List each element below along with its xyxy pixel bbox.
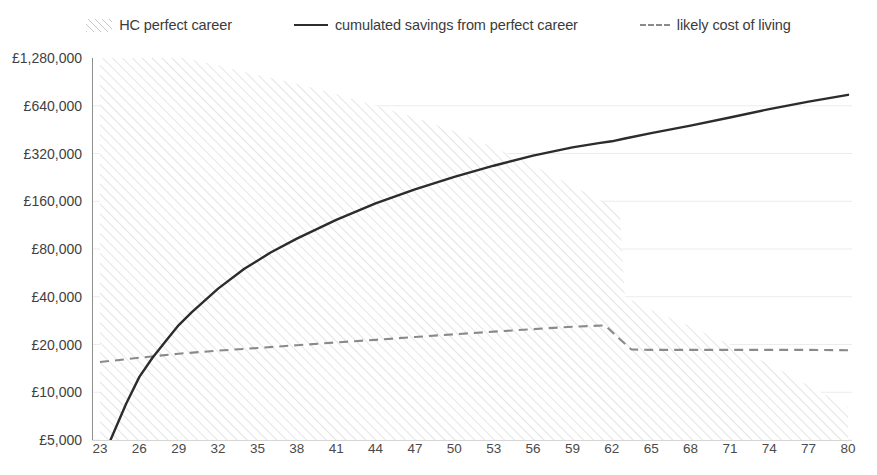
x-axis-tick-label: 59 <box>565 441 580 456</box>
x-axis-tick-label: 71 <box>722 441 737 456</box>
x-axis-tick-label: 23 <box>92 441 107 456</box>
x-axis-tick-label: 50 <box>447 441 462 456</box>
legend-item-hc-perfect-career[interactable]: HC perfect career <box>86 17 232 33</box>
x-axis-tick-label: 47 <box>407 441 422 456</box>
y-axis-tick-label: £80,000 <box>31 241 82 257</box>
x-axis-tick-label: 65 <box>644 441 659 456</box>
x-axis-tick-label: 56 <box>526 441 541 456</box>
legend-label-likely-cost-of-living: likely cost of living <box>677 17 791 33</box>
x-axis-tick-label: 53 <box>486 441 501 456</box>
x-axis-tick-label: 32 <box>211 441 226 456</box>
y-axis: £1,280,000£640,000£320,000£160,000£80,00… <box>0 0 86 475</box>
legend-item-cumulated-savings[interactable]: cumulated savings from perfect career <box>294 17 578 33</box>
x-axis: 2326293235384144475053565962656871747780 <box>0 441 877 465</box>
dashed-line-icon <box>640 24 670 26</box>
x-axis-tick-label: 26 <box>132 441 147 456</box>
y-axis-tick-label: £160,000 <box>24 193 82 209</box>
y-axis-tick-label: £40,000 <box>31 289 82 305</box>
savings-chart: HC perfect career cumulated savings from… <box>0 0 877 475</box>
x-axis-tick-label: 80 <box>840 441 855 456</box>
hatch-swatch-icon <box>86 19 112 32</box>
x-axis-tick-label: 74 <box>762 441 777 456</box>
x-axis-tick-label: 44 <box>368 441 383 456</box>
x-axis-tick-label: 35 <box>250 441 265 456</box>
legend-label-cumulated-savings: cumulated savings from perfect career <box>335 17 578 33</box>
y-axis-tick-label: £640,000 <box>24 98 82 114</box>
x-axis-tick-label: 38 <box>289 441 304 456</box>
y-axis-tick-label: £20,000 <box>31 337 82 353</box>
legend-label-hc-perfect-career: HC perfect career <box>119 17 232 33</box>
x-axis-tick-label: 62 <box>604 441 619 456</box>
x-axis-tick-label: 29 <box>171 441 186 456</box>
y-axis-tick-label: £1,280,000 <box>12 50 82 66</box>
chart-legend: HC perfect career cumulated savings from… <box>0 8 877 42</box>
x-axis-tick-label: 68 <box>683 441 698 456</box>
legend-item-likely-cost-of-living[interactable]: likely cost of living <box>640 17 791 33</box>
y-axis-line <box>92 58 93 440</box>
y-axis-tick-label: £320,000 <box>24 146 82 162</box>
plot-svg <box>92 58 852 440</box>
solid-line-icon <box>294 24 328 26</box>
plot-area <box>92 58 852 440</box>
x-axis-tick-label: 77 <box>801 441 816 456</box>
x-axis-tick-label: 41 <box>329 441 344 456</box>
y-axis-tick-label: £10,000 <box>31 384 82 400</box>
